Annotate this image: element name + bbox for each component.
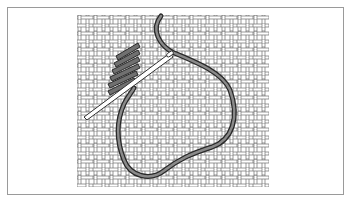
needlework-illustration: [0, 0, 354, 207]
